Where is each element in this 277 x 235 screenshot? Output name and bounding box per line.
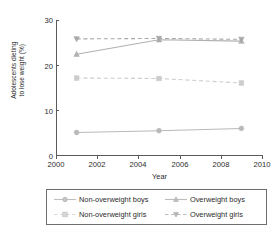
x-tick-mark-2006 (180, 156, 181, 159)
square-marker-icon (53, 209, 77, 220)
y-axis-label: Adolescents dieting to lose weight (%) (0, 0, 30, 160)
legend-label-overweight-girls: Overweight girls (188, 210, 243, 219)
x-tick-label-2004: 2004 (123, 160, 153, 169)
y-axis-line (56, 20, 57, 156)
x-tick-mark-2008 (221, 156, 222, 159)
chart-figure: Adolescents dieting to lose weight (%) 0… (0, 0, 277, 235)
x-tick-label-2010: 2010 (247, 160, 277, 169)
y-axis-label-line1: Adolescents dieting (10, 10, 18, 130)
x-axis-line (56, 155, 263, 156)
legend-item-overweight-boys[interactable]: Overweight boys (162, 192, 266, 207)
x-tick-mark-2000 (56, 156, 57, 159)
series-overweight-boys (74, 37, 244, 57)
circle-marker-icon (53, 194, 77, 205)
x-tick-label-2002: 2002 (82, 160, 112, 169)
y-tick-label-30: 30 (37, 16, 53, 25)
series-non-overweight-girls (74, 76, 243, 86)
legend-label-non-overweight-girls: Non-overweight girls (77, 210, 146, 219)
y-tick-label-10: 10 (37, 107, 53, 116)
x-tick-label-2000: 2000 (41, 160, 71, 169)
legend-row-1: Non-overweight boys Overweight boys (47, 192, 266, 207)
triangle-up-marker-icon (164, 194, 188, 205)
y-tick-label-20: 20 (37, 62, 53, 71)
triangle-down-marker-icon (164, 209, 188, 220)
x-tick-label-2008: 2008 (206, 160, 236, 169)
x-tick-mark-2004 (138, 156, 139, 159)
x-tick-mark-2010 (262, 156, 263, 159)
x-tick-mark-2002 (97, 156, 98, 159)
y-axis-label-line2: to lose weight (%) (18, 10, 26, 130)
chart-legend: Non-overweight boys Overweight boys (46, 189, 267, 225)
legend-item-overweight-girls[interactable]: Overweight girls (162, 207, 266, 222)
legend-row-2: Non-overweight girls Overweight girls (47, 207, 266, 222)
x-tick-label-2006: 2006 (165, 160, 195, 169)
legend-item-non-overweight-girls[interactable]: Non-overweight girls (47, 207, 162, 222)
x-axis-label: Year (56, 172, 263, 181)
series-non-overweight-boys (74, 126, 244, 135)
legend-item-non-overweight-boys[interactable]: Non-overweight boys (47, 192, 162, 207)
legend-label-non-overweight-boys: Non-overweight boys (77, 195, 148, 204)
legend-label-overweight-boys: Overweight boys (188, 195, 245, 204)
series-overweight-girls (74, 36, 244, 42)
y-axis-tick-labels: 0 10 20 30 (34, 0, 53, 160)
